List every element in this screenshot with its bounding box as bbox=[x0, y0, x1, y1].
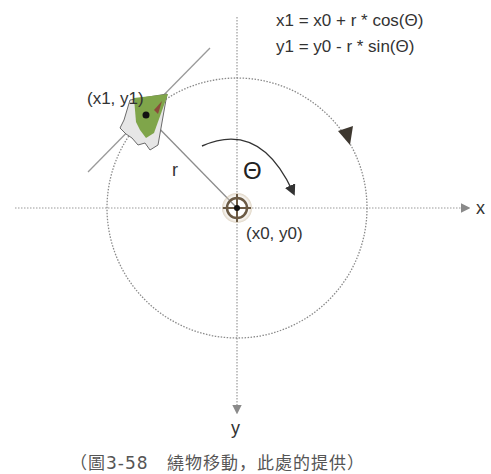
object-center-dot bbox=[143, 112, 150, 119]
label-point1: (x1, y1) bbox=[87, 89, 144, 109]
label-y-axis: y bbox=[231, 418, 240, 439]
formula-y1: y1 = y0 - r * sin(Θ) bbox=[276, 36, 414, 58]
formula-x1: x1 = x0 + r * cos(Θ) bbox=[276, 10, 423, 32]
label-x-axis: x bbox=[476, 198, 485, 219]
figure-caption: （圖3-58 繞物移動，此處的提供） bbox=[70, 449, 365, 474]
label-radius: r bbox=[172, 160, 178, 181]
radius-line bbox=[148, 117, 237, 208]
center-dot bbox=[234, 205, 240, 211]
label-angle: Θ bbox=[243, 157, 262, 185]
orbit-direction-arrow-icon bbox=[338, 126, 353, 145]
label-point0: (x0, y0) bbox=[246, 224, 303, 244]
